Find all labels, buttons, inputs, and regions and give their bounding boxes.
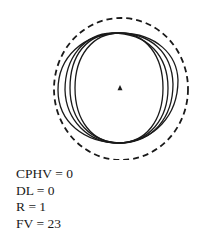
circle-diagram	[0, 0, 220, 160]
legend-dl: DL = 0	[16, 183, 73, 200]
trace-curves	[58, 33, 178, 143]
parameter-legend: CPHV = 0 DL = 0 R = 1 FV = 23	[16, 166, 73, 232]
legend-cphv: CPHV = 0	[16, 166, 73, 183]
legend-r: R = 1	[16, 199, 73, 216]
triangle-icon	[118, 85, 123, 90]
legend-fv: FV = 23	[16, 216, 73, 233]
